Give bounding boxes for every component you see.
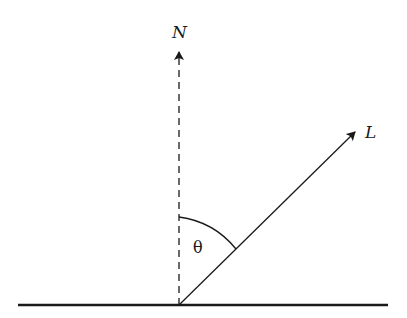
light-vector bbox=[179, 132, 355, 305]
incidence-angle-diagram: N L θ bbox=[0, 0, 407, 318]
normal-label: N bbox=[171, 22, 188, 42]
light-label: L bbox=[364, 122, 376, 142]
angle-label: θ bbox=[193, 238, 203, 257]
angle-arc bbox=[179, 217, 236, 249]
